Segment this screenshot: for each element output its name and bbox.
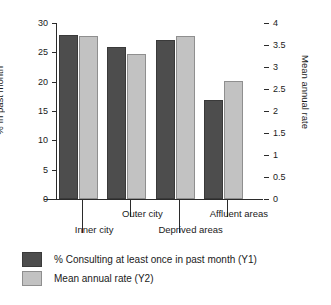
right-axis-tick-label: 1.5 [273, 129, 286, 138]
left-axis-tick [52, 199, 57, 200]
plot-area [57, 23, 250, 199]
bar-y2 [176, 36, 195, 199]
bar-y1 [156, 40, 175, 199]
left-axis-tick-label: 25 [0, 48, 48, 57]
legend-swatch-icon [22, 271, 42, 286]
legend-item: Mean annual rate (Y2) [22, 271, 257, 286]
right-axis-tick-label: 2 [273, 107, 278, 116]
bar-y1 [107, 47, 126, 199]
right-axis-tick [264, 67, 269, 68]
category-label: Outer city [122, 208, 163, 219]
bar-y1 [59, 35, 78, 199]
left-axis-tick-label: 30 [0, 19, 48, 28]
right-axis-tick [264, 111, 269, 112]
right-axis-tick-label: 0.5 [273, 173, 286, 182]
right-axis-tick [264, 199, 269, 200]
right-axis-title: Mean annual rate [300, 55, 311, 129]
right-axis-tick [264, 45, 269, 46]
bar-y2 [127, 54, 146, 199]
right-axis-tick-label: 1 [273, 151, 278, 160]
right-axis-tick [264, 177, 269, 178]
legend-swatch-icon [22, 252, 42, 267]
right-axis-tick [264, 89, 269, 90]
bar-y2 [79, 36, 98, 199]
legend-label: % Consulting at least once in past month… [54, 254, 257, 265]
right-axis-tick-label: 2.5 [273, 85, 286, 94]
left-axis-tick-label: 10 [0, 136, 48, 145]
bar-y1 [204, 100, 223, 199]
left-axis-tick-label: 0 [0, 195, 48, 204]
left-axis-tick-label: 5 [0, 165, 48, 174]
chart-figure: 051015202530 00.511.522.533.54 % In past… [0, 0, 331, 305]
right-axis-tick-label: 4 [273, 19, 278, 28]
category-label: Inner city [75, 224, 114, 235]
right-axis-tick [264, 23, 269, 24]
chart-legend: % Consulting at least once in past month… [22, 252, 257, 290]
right-axis-tick-label: 3 [273, 63, 278, 72]
right-axis-tick-label: 3.5 [273, 41, 286, 50]
x-axis-baseline [44, 199, 263, 200]
legend-item: % Consulting at least once in past month… [22, 252, 257, 267]
legend-label: Mean annual rate (Y2) [54, 273, 154, 284]
right-axis-tick [264, 155, 269, 156]
category-label: Affluent areas [210, 208, 268, 219]
right-axis-tick-label: 0 [273, 195, 278, 204]
bar-y2 [224, 81, 243, 199]
right-axis-tick [264, 133, 269, 134]
category-label: Deprived areas [158, 224, 222, 235]
